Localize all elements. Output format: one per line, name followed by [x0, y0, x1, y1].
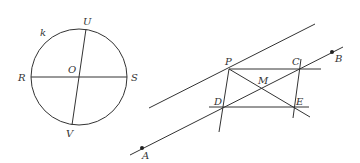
- label-a: A: [141, 150, 149, 161]
- label-c: C: [292, 56, 300, 67]
- label-b: B: [334, 53, 342, 64]
- label-r: R: [17, 72, 26, 83]
- diagram-canvas: U k R O S V P C M D E B A: [0, 0, 360, 163]
- line-through-p: [149, 24, 315, 108]
- circle-figure: U k R O S V: [17, 16, 138, 139]
- label-m: M: [257, 75, 269, 86]
- label-o: O: [68, 64, 76, 75]
- label-e: E: [295, 96, 304, 107]
- point-b-dot: [330, 50, 334, 54]
- label-s: S: [131, 72, 138, 83]
- label-p: P: [224, 56, 232, 67]
- parallel-lines-figure: P C M D E B A: [130, 24, 343, 161]
- label-d: D: [213, 96, 222, 107]
- label-v: V: [66, 128, 75, 139]
- line-pe: [229, 69, 310, 117]
- label-u: U: [83, 16, 92, 27]
- geometry-figure: U k R O S V P C M D E B A: [0, 0, 360, 163]
- label-k: k: [40, 27, 46, 38]
